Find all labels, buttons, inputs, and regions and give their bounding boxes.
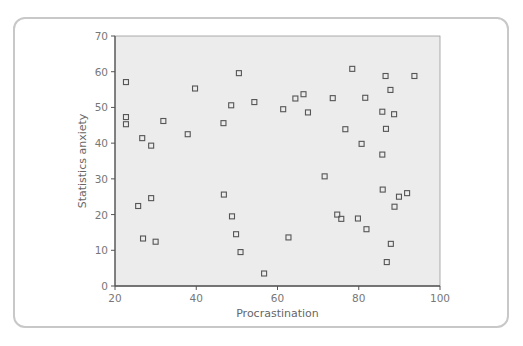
y-tick-label: 30 [95,173,108,185]
y-tick-label: 0 [101,280,108,292]
x-axis: 20406080100 [108,286,450,304]
y-tick-label: 70 [95,30,108,42]
y-axis: 010203040506070 [95,30,115,292]
plot-area [115,36,440,286]
y-tick-label: 60 [95,66,108,78]
scatter-chart: 20406080100 010203040506070 Procrastinat… [0,0,523,346]
y-tick-label: 50 [95,101,108,113]
x-tick-label: 40 [190,292,203,304]
y-tick-label: 20 [95,209,108,221]
y-tick-label: 40 [95,137,108,149]
x-axis-title: Procrastination [236,307,319,320]
y-tick-label: 10 [95,244,108,256]
x-tick-label: 60 [271,292,284,304]
y-axis-title: Statistics anxiety [76,113,89,208]
x-tick-label: 100 [430,292,450,304]
x-tick-label: 80 [352,292,365,304]
x-tick-label: 20 [108,292,121,304]
